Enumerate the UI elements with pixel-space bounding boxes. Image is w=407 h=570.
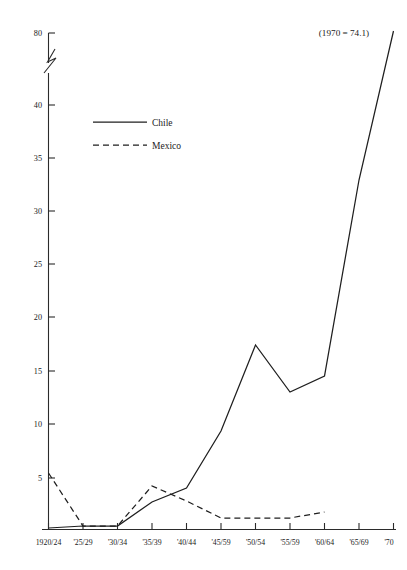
legend-entry-chile: Chile (93, 118, 173, 128)
y-tick-label-30: 30 (34, 207, 42, 216)
x-tick-label-0: 1920/24 (36, 538, 62, 547)
series-line-chile (49, 31, 394, 528)
x-tick-label-3: '35/39 (142, 538, 161, 547)
x-tick-label-5: '45/59 (211, 538, 230, 547)
peak-annotation: (1970 = 74.1) (319, 28, 369, 38)
y-tick-label-5: 5 (38, 474, 42, 483)
y-tick-label-20: 20 (34, 313, 42, 322)
series-group (49, 31, 394, 528)
legend-entry-mexico: Mexico (93, 141, 181, 151)
y-tick-label-40: 40 (34, 101, 42, 110)
y-tick-label-15: 15 (34, 367, 42, 376)
series-line-mexico (49, 473, 325, 526)
x-tick-label-10: '70 (384, 538, 393, 547)
y-tick-label-10: 10 (34, 420, 42, 429)
x-tick-label-9: '65/69 (349, 538, 368, 547)
x-tick-label-7: '55/59 (280, 538, 299, 547)
axes-group (42, 33, 396, 530)
legend-label-mexico: Mexico (152, 141, 181, 151)
x-tick-label-1: '25/29 (73, 538, 92, 547)
legend-label-chile: Chile (152, 118, 173, 128)
y-tick-label-80: 80 (34, 29, 42, 38)
chart-container: 80 40 35 30 25 20 15 10 5 1920/24 '25/29 (0, 0, 407, 570)
axis-break-icon (44, 49, 56, 73)
line-chart: 80 40 35 30 25 20 15 10 5 1920/24 '25/29 (0, 0, 407, 570)
x-tick-label-2: '30/34 (108, 538, 127, 547)
legend: Chile Mexico (93, 118, 181, 151)
y-tick-label-25: 25 (34, 260, 42, 269)
x-tick-label-4: '40/44 (177, 538, 196, 547)
y-tick-group: 80 40 35 30 25 20 15 10 5 (34, 29, 55, 483)
x-tick-label-8: '60/64 (315, 538, 334, 547)
y-tick-label-35: 35 (34, 154, 42, 163)
x-tick-label-6: '50/54 (246, 538, 265, 547)
